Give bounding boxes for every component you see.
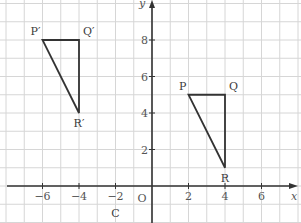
axes	[7, 0, 298, 223]
y-tick-label: 6	[141, 71, 148, 84]
x-tick-label: 2	[185, 190, 192, 203]
vertex-label: P	[179, 80, 187, 93]
vertex-label: Q′	[83, 25, 95, 38]
x-tick-label: −4	[71, 190, 87, 203]
vertex-label: Q	[229, 80, 238, 93]
origin-label: O	[137, 192, 146, 205]
x-tick-label: 4	[222, 190, 229, 203]
y-tick-label: 2	[141, 144, 148, 157]
point-label-c: C	[111, 207, 119, 220]
x-tick-label: 6	[258, 190, 265, 203]
x-axis-label: x	[291, 190, 298, 203]
coordinate-grid: −6−4−22462468OxyCPQRP′Q′R′	[0, 0, 301, 223]
y-axis-label: y	[138, 0, 146, 10]
y-tick-label: 4	[141, 107, 148, 120]
x-axis-arrow-icon	[289, 183, 298, 189]
x-tick-label: −2	[107, 190, 123, 203]
vertex-label: P′	[31, 25, 41, 38]
y-tick-label: 8	[141, 34, 148, 47]
labels: −6−4−22462468OxyCPQRP′Q′R′	[31, 0, 298, 220]
vertex-label: R′	[74, 117, 85, 130]
vertex-label: R	[221, 172, 230, 185]
x-tick-label: −6	[34, 190, 50, 203]
